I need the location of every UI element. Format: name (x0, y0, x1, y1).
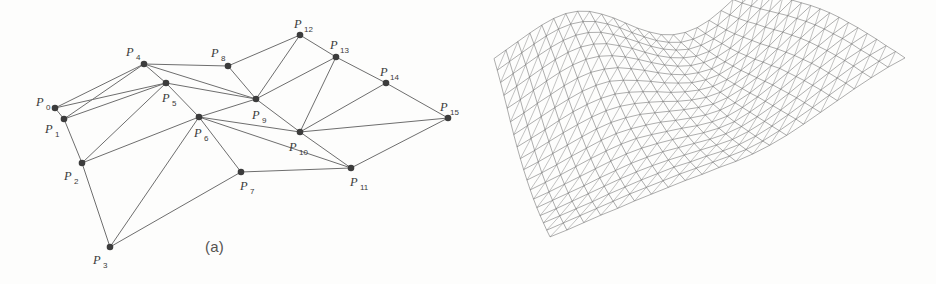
surface-wire-segment (684, 100, 692, 110)
surface-wire-segment (553, 184, 565, 200)
surface-wire-segment (655, 101, 663, 112)
vertex-label-10: P (288, 140, 297, 154)
surface-wire-segment (664, 74, 671, 83)
surface-wire-segment (692, 73, 698, 83)
mesh-vertex-12 (297, 32, 304, 39)
mesh-vertex-6 (196, 114, 203, 121)
mesh-vertex-11 (348, 165, 355, 172)
surface-row-line (547, 52, 896, 231)
mesh-edge (144, 64, 228, 66)
surface-wire-segment (765, 85, 773, 101)
mesh-edge (82, 83, 166, 163)
surface-diagonal-group (497, 0, 895, 237)
surface-wire-segment (804, 108, 813, 125)
surface-wire-segment (676, 42, 681, 50)
mesh-edge (64, 119, 82, 163)
surface-wire-segment (576, 22, 583, 36)
surface-wire-segment (556, 193, 568, 209)
surface-wire-segment (692, 90, 699, 100)
vertex-label-4: P (125, 45, 134, 59)
surface-wire-segment (765, 106, 773, 122)
surface-wire-segment (613, 187, 625, 201)
surface-wire-segment (620, 92, 629, 106)
surface-wire-segment (618, 194, 630, 208)
vertex-label-sub-14: 14 (390, 73, 399, 82)
surface-wire-segment (658, 65, 665, 73)
vertex-label-sub-1: 1 (55, 130, 60, 139)
surface-wire-segment (685, 66, 691, 75)
vertex-label-11: P (349, 175, 358, 189)
surface-wire-segment (813, 90, 821, 108)
surface-column-line (530, 33, 601, 215)
vertex-label-sub-12: 12 (304, 25, 313, 34)
surface-wire-segment (717, 44, 722, 57)
mesh-edge (82, 163, 110, 247)
surface-wire-segment (576, 194, 588, 209)
surface-wire-segment (647, 144, 657, 158)
surface-column-line (745, 0, 905, 58)
surface-wire-segment (671, 66, 677, 74)
mesh-edge (144, 64, 256, 99)
surface-wire-segment (773, 68, 780, 85)
surface-wire-segment (632, 28, 637, 32)
vertex-label-1: P (44, 122, 53, 136)
surface-column-line (590, 11, 686, 180)
surface-wire-segment (746, 136, 756, 149)
surface-wire-segment (606, 35, 613, 44)
surface-column-line (709, 20, 854, 89)
vertex-label-sub-0: 0 (46, 103, 51, 112)
surface-row-line (504, 0, 773, 95)
surface-wire-segment (664, 42, 669, 49)
surface-wire-segment (638, 52, 645, 59)
vertex-label-0: P (35, 95, 44, 109)
surface-row-line (550, 58, 905, 237)
vertex-label-sub-9: 9 (262, 116, 267, 125)
vertex-label-3: P (92, 253, 101, 267)
vertex-label-15: P (439, 100, 448, 114)
surface-wire-segment (681, 32, 685, 42)
surface-wire-segment (763, 126, 772, 141)
surface-wire-segment (591, 56, 599, 72)
surface-wire-segment (678, 75, 685, 83)
mesh-edge (256, 57, 336, 99)
panel-a-triangulated-mesh: P0P1P2P3P4P5P6P7P8P9P10P11P12P13P14P15 (… (0, 0, 468, 284)
surface-column-line (697, 28, 837, 101)
vertex-label-sub-6: 6 (204, 134, 209, 143)
vertex-label-9: P (251, 108, 260, 122)
surface-wire-segment (668, 148, 678, 160)
surface-wire-segment (625, 48, 632, 57)
mesh-edge (199, 117, 351, 168)
mesh-vertex-0 (52, 105, 59, 112)
surface-wire-segment (547, 60, 556, 81)
surface-wire-segment (601, 24, 608, 32)
surface-wire-segment (757, 101, 765, 116)
surface-wire-segment (656, 35, 661, 41)
mesh-edge (199, 99, 256, 117)
surface-wire-segment (621, 129, 631, 144)
surface-wire-segment (573, 91, 582, 112)
mesh-edge (300, 57, 336, 132)
surface-wire-segment (588, 22, 595, 33)
vertex-label-6: P (193, 126, 202, 140)
vertex-label-14: P (379, 65, 388, 79)
surface-wire-segment (683, 49, 688, 58)
surface-wire-segment (610, 68, 618, 82)
surface-wire-segment (592, 186, 604, 201)
surface-wire-segment (722, 30, 726, 44)
surface-wire-segment (651, 56, 657, 63)
vertex-label-7: P (239, 179, 248, 193)
surface-wire-segment (829, 78, 837, 95)
surface-wire-segment (567, 216, 580, 230)
surface-wire-segment (661, 111, 670, 122)
surface-wire-segment (749, 117, 758, 132)
mesh-vertex-7 (238, 169, 245, 176)
surface-wire-segment (658, 49, 664, 56)
surface-wire-segment (547, 216, 560, 230)
surface-wire-segment (546, 18, 553, 36)
surface-wire-segment (572, 186, 584, 201)
mesh-vertex-group: P0P1P2P3P4P5P6P7P8P9P10P11P12P13P14P15 (35, 17, 459, 270)
surface-wire-segment (592, 98, 601, 117)
surface-wire-segment (571, 11, 578, 24)
surface-wire-segment (560, 52, 568, 72)
mesh-edge (199, 117, 241, 172)
